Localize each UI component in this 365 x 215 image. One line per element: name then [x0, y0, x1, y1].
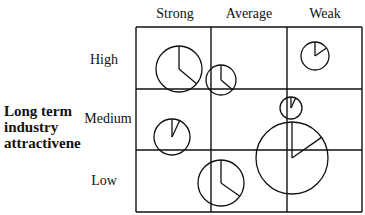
bubble-slice-edge: [221, 80, 232, 90]
bubble-slice-edge: [315, 48, 326, 56]
bubble-slice-edge: [291, 98, 296, 108]
bubble-slice-edge: [179, 69, 197, 84]
bubble-slice-edge: [172, 121, 180, 137]
portfolio-matrix: [0, 0, 365, 215]
bubble-slice-edge: [221, 183, 240, 196]
bubble-slice-edge: [292, 137, 321, 158]
